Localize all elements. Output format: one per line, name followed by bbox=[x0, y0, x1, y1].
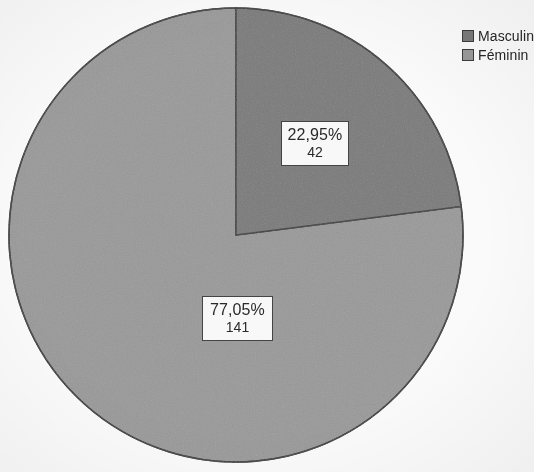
data-label-masculin-count: 42 bbox=[307, 145, 323, 160]
data-label-masculin: 22,95% 42 bbox=[281, 121, 349, 166]
data-label-feminin-count: 141 bbox=[226, 320, 249, 335]
legend-item-feminin[interactable]: Féminin bbox=[462, 47, 534, 63]
data-label-feminin-percent: 77,05% bbox=[210, 301, 265, 318]
legend-swatch-feminin bbox=[462, 49, 474, 61]
legend-label-masculin: Masculin bbox=[478, 28, 534, 44]
pie-chart-figure: 22,95% 42 77,05% 141 Masculin Féminin bbox=[0, 0, 534, 472]
legend-item-masculin[interactable]: Masculin bbox=[462, 28, 534, 44]
legend-swatch-masculin bbox=[462, 30, 474, 42]
pie-chart-canvas bbox=[0, 0, 534, 472]
data-label-masculin-percent: 22,95% bbox=[288, 126, 343, 143]
legend-label-feminin: Féminin bbox=[478, 47, 529, 63]
data-label-feminin: 77,05% 141 bbox=[202, 296, 273, 341]
chart-legend: Masculin Féminin bbox=[462, 28, 534, 63]
